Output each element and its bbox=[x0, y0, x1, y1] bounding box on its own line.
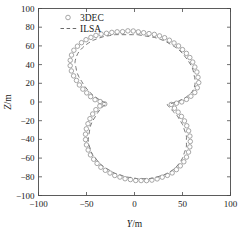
y-tick-label: −60 bbox=[20, 153, 35, 163]
y-tick-label: −20 bbox=[20, 116, 35, 126]
y-tick-label: 80 bbox=[26, 22, 36, 32]
y-tick-label: −80 bbox=[20, 172, 35, 182]
y-tick-label: 20 bbox=[26, 78, 36, 88]
y-tick-label: −40 bbox=[20, 134, 35, 144]
y-tick-label: 0 bbox=[30, 97, 35, 107]
chart-figure: −100−50050100 −100−80−60−40−200204060801… bbox=[0, 0, 244, 237]
y-tick-label: 40 bbox=[26, 60, 36, 70]
y-tick-label: −100 bbox=[16, 191, 35, 201]
x-tick-label: 100 bbox=[224, 199, 238, 209]
x-axis-title: Y/m bbox=[127, 219, 143, 229]
x-tick-label: 0 bbox=[132, 199, 137, 209]
y-tick-label: 100 bbox=[21, 4, 35, 14]
y-tick-label: 60 bbox=[26, 41, 36, 51]
legend-label-3dec: 3DEC bbox=[80, 13, 104, 23]
x-tick-label: 50 bbox=[178, 199, 188, 209]
y-axis-title: Z/m bbox=[3, 94, 13, 110]
legend-label-ilsa: ILSA bbox=[80, 24, 101, 34]
x-tick-label: −50 bbox=[79, 199, 94, 209]
